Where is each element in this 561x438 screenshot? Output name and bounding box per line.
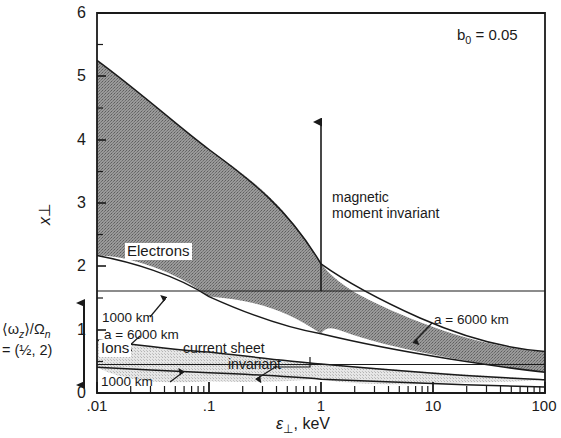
y-tick-label-1: 1 bbox=[60, 321, 86, 339]
magnetic-moment-line1: magnetic bbox=[332, 190, 439, 206]
omega-bracket-open: ⟨ω bbox=[2, 321, 19, 337]
y-axis-title-text: x⊥ bbox=[36, 203, 53, 225]
x-tick-label-01: .1 bbox=[192, 398, 226, 415]
b0-annotation: b0 = 0.05 bbox=[457, 27, 518, 46]
y-tick-label-5: 5 bbox=[60, 67, 86, 85]
x-axis-title-perp: ⊥ bbox=[283, 422, 293, 436]
y-axis-title: x⊥ bbox=[36, 203, 54, 225]
x-tick-label-001: .01 bbox=[77, 398, 117, 415]
ion-lower-curve-label: 1000 km bbox=[101, 374, 153, 389]
x-ticks bbox=[97, 382, 545, 393]
current-sheet-line2: invariant bbox=[228, 357, 281, 373]
x-axis-title-units: , keV bbox=[293, 415, 329, 432]
ion-upper-curve-label: a = 6000 km bbox=[104, 327, 179, 342]
b0-subscript: 0 bbox=[465, 34, 471, 46]
b0-equation: = 0.05 bbox=[476, 26, 518, 43]
x-tick-label-1: 1 bbox=[304, 398, 338, 415]
magnetic-moment-line2: moment invariant bbox=[332, 206, 439, 222]
omega-subscript-n: n bbox=[45, 329, 51, 340]
omega-ratio-annotation: ⟨ωz⟩/Ωn = (½, 2) bbox=[2, 320, 52, 359]
current-sheet-invariant-label: current sheet invariant bbox=[183, 341, 281, 372]
y-tick-label-6: 6 bbox=[60, 4, 86, 22]
x-tick-label-10: 10 bbox=[416, 398, 450, 415]
electron-lower-curve-label: 1000 km bbox=[102, 310, 154, 325]
x-tick-label-100: 100 bbox=[527, 398, 561, 415]
x-axis-title-epsilon: ε bbox=[276, 415, 283, 432]
y-tick-label-2: 2 bbox=[60, 257, 86, 275]
y-tick-label-4: 4 bbox=[60, 131, 86, 149]
omega-ratio-line1: ⟨ωz⟩/Ωn bbox=[2, 320, 52, 341]
chart-figure: 6 5 4 3 2 1 0 .01 .1 1 10 100 x⊥ ε⊥, keV… bbox=[0, 0, 561, 438]
ions-band-label: Ions bbox=[99, 340, 131, 357]
y-tick-label-3: 3 bbox=[60, 194, 86, 212]
x-axis-title: ε⊥, keV bbox=[276, 415, 330, 437]
omega-bracket-close: ⟩/Ω bbox=[24, 321, 45, 337]
omega-ratio-line2: = (½, 2) bbox=[2, 341, 52, 359]
electrons-band-label: Electrons bbox=[125, 243, 192, 260]
magnetic-moment-invariant-label: magnetic moment invariant bbox=[332, 190, 439, 221]
current-sheet-line1: current sheet bbox=[183, 341, 281, 357]
electron-upper-curve-label: a = 6000 km bbox=[434, 312, 509, 327]
